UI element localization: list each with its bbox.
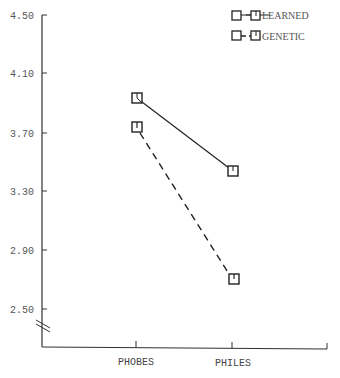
axis-break-icon [36,320,50,332]
y-label-4.10: 4.10 [10,69,34,80]
y-tick-labels: 4.50 4.10 3.70 3.30 2.90 2.50 [10,11,34,316]
series-learned [132,93,238,176]
legend-label-genetic: GENETIC [262,31,305,42]
square-marker-icon [132,122,142,132]
square-marker-icon [132,93,142,103]
legend-label-learned: LEARNED [262,10,309,21]
y-label-2.90: 2.90 [10,246,34,257]
square-marker-icon [229,274,239,284]
y-label-3.30: 3.30 [10,187,34,198]
chart: 4.50 4.10 3.70 3.30 2.90 2.50 PHOBES PHI… [0,0,340,378]
legend-item-genetic: GENETIC [232,31,305,42]
y-label-2.50: 2.50 [10,305,34,316]
series-genetic [132,122,239,284]
legend-item-learned: LEARNED [232,10,309,21]
x-label-philes: PHILES [215,358,251,369]
x-label-phobes: PHOBES [118,357,154,368]
legend: LEARNED GENETIC [232,10,309,42]
square-marker-icon [228,166,238,176]
y-label-3.70: 3.70 [10,129,34,140]
y-label-4.50: 4.50 [10,11,34,22]
y-ticks [42,15,47,309]
x-axis [42,347,327,349]
